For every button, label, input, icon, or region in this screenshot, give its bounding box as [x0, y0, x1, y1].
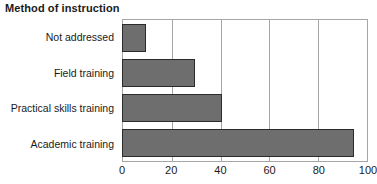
x-tick-label: 100 [359, 164, 377, 176]
x-tick-label: 80 [313, 164, 325, 176]
plot-area [122, 19, 368, 162]
chart-title: Method of instruction [5, 2, 120, 14]
bar-field-training [122, 59, 195, 87]
x-tick-label: 20 [165, 164, 177, 176]
bar-row [123, 91, 367, 126]
x-tick-label: 40 [214, 164, 226, 176]
bar-chart-figure: Method of instruction Not addressed Fiel… [0, 0, 377, 184]
bar-row [123, 126, 367, 161]
bar-practical-skills-training [122, 94, 222, 122]
y-axis-category-labels: Not addressed Field training Practical s… [0, 19, 118, 162]
x-tick-label: 0 [119, 164, 125, 176]
bar-row [123, 20, 367, 55]
bar-row [123, 55, 367, 90]
bar-academic-training [122, 129, 354, 157]
x-axis-tick-labels: 0 20 40 60 80 100 [122, 164, 368, 182]
category-label: Practical skills training [0, 91, 118, 127]
category-label: Field training [0, 55, 118, 91]
x-tick-label: 60 [263, 164, 275, 176]
category-label: Not addressed [0, 19, 118, 55]
category-label: Academic training [0, 126, 118, 162]
bars-layer [123, 20, 367, 161]
bar-not-addressed [122, 24, 146, 52]
